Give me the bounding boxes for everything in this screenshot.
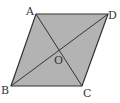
vertex-label-b: B <box>1 84 9 97</box>
vertex-label-c: C <box>83 87 91 100</box>
intersection-label-o: O <box>54 54 63 67</box>
vertex-label-a: A <box>25 5 35 18</box>
parallelogram-diagram: A D B C O <box>0 0 120 103</box>
vertex-label-d: D <box>108 9 117 22</box>
